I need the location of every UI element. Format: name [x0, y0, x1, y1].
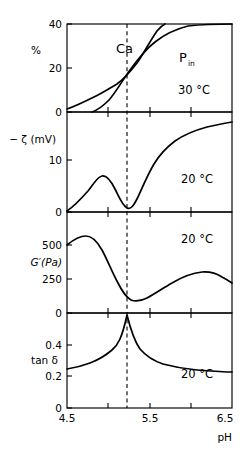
curve-zeta-potential: [67, 122, 232, 211]
panel-gprime-axis-label: G′(Pa): [31, 256, 62, 268]
panel-percent: 40 20 0 % Ca P in 30 °C: [31, 18, 232, 118]
panel-gprime-annotation: 20 °C: [181, 232, 213, 246]
x-axis: 4.5 5.5 6.5 pH: [59, 412, 234, 443]
panel-percent-ytick-label-20: 20: [49, 62, 62, 74]
xtick-label-5p5: 5.5: [142, 412, 159, 424]
multi-panel-chart: 40 20 0 % Ca P in 30 °C 10 0 − ζ (mV) 20…: [0, 0, 248, 459]
panel-gprime-ytick-label-0: 0: [55, 307, 62, 319]
series-label-ca: Ca: [116, 41, 133, 56]
figure-container: 40 20 0 % Ca P in 30 °C 10 0 − ζ (mV) 20…: [0, 0, 248, 459]
panel-tandelta-axis-label: tan δ: [31, 354, 58, 366]
panel-percent-ytick-label-0: 0: [55, 106, 62, 118]
panel-zeta: 10 0 − ζ (mV) 20 °C: [9, 112, 232, 218]
panel-gprime-axis-label-text: G′(Pa): [31, 256, 62, 268]
panel-tandelta-ytick-label-0p4: 0.4: [45, 339, 62, 351]
panel-gprime-ytick-label-250: 250: [42, 273, 62, 285]
series-label-pin-subscript: in: [188, 59, 195, 68]
curve-pin: [92, 24, 232, 112]
xtick-label-4p5: 4.5: [59, 412, 76, 424]
panel-percent-ytick-label-40: 40: [49, 18, 62, 30]
panel-gprime: 500 250 0 G′(Pa) 20 °C: [31, 212, 232, 319]
curve-ca: [67, 24, 165, 109]
panel-zeta-axis-label: − ζ (mV): [9, 133, 56, 145]
panel-tandelta-frame: [67, 313, 232, 408]
panel-zeta-annotation: 20 °C: [181, 172, 213, 186]
panel-zeta-ytick-label-0: 0: [55, 206, 62, 218]
x-axis-label: pH: [217, 431, 232, 443]
curve-loss-tangent: [67, 315, 232, 372]
series-label-pin: P: [179, 50, 187, 65]
panel-gprime-frame: [67, 212, 232, 313]
xtick-label-6p5: 6.5: [217, 412, 234, 424]
panel-percent-annotation: 30 °C: [178, 83, 210, 97]
panel-percent-axis-label: %: [31, 44, 41, 56]
panel-zeta-ytick-label-10: 10: [49, 154, 62, 166]
panel-tandelta-annotation: 20 °C: [181, 367, 213, 381]
panel-tandelta: 0.4 0.2 0 tan δ 20 °C: [31, 313, 232, 414]
panel-tandelta-ytick-label-0p2: 0.2: [45, 370, 62, 382]
panel-gprime-ytick-label-500: 500: [42, 239, 62, 251]
